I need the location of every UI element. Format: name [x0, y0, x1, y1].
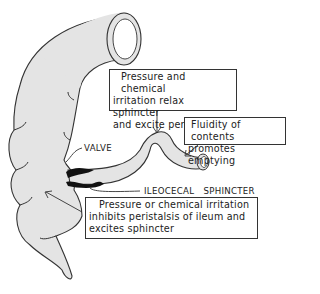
callout-bottom-line-2: inhibits peristalsis of ileum and — [89, 211, 254, 223]
callout-bottom-line-3: excites sphincter — [89, 223, 254, 235]
sphincter-leader — [90, 188, 140, 192]
callout-top-line-2: irritation relax sphincter — [113, 95, 233, 119]
callout-right-line-1: Fluidity of contents — [188, 119, 282, 143]
callout-right: Fluidity of contents promotes emptying — [184, 117, 286, 145]
callout-top-line-1: Pressure and chemical — [113, 71, 233, 95]
figure-caption-cropped — [36, 288, 246, 294]
ileocecal-sphincter-label: ILEOCECAL SPHINCTER — [144, 186, 255, 196]
callout-top: Pressure and chemical irritation relax s… — [109, 69, 237, 111]
callout-bottom: Pressure or chemical irritation inhibits… — [85, 197, 258, 239]
valve-label: VALVE — [84, 143, 112, 153]
valve-leader — [66, 148, 82, 162]
colon-opening-inner — [113, 19, 137, 59]
callout-bottom-line-1: Pressure or chemical irritation — [89, 199, 254, 211]
callout-right-line-2: promotes emptying — [188, 143, 282, 167]
